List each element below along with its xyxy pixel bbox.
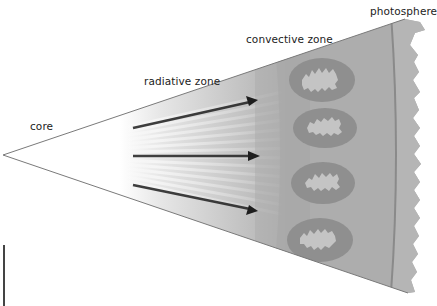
convection-cell: [293, 108, 357, 148]
scale-bar: [3, 245, 5, 306]
label-core: core: [30, 120, 53, 132]
photosphere: [390, 0, 437, 306]
convection-cell: [291, 162, 355, 204]
label-radiative-zone: radiative zone: [144, 75, 220, 87]
sun-wedge: [0, 0, 437, 306]
label-photosphere: photosphere: [370, 5, 437, 17]
label-convective-zone: convective zone: [246, 33, 333, 45]
sun-structure-diagram: [0, 0, 437, 306]
convection-cell: [289, 58, 355, 102]
